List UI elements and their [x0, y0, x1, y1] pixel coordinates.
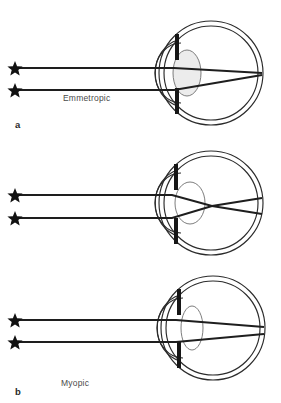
panel-emmetropic: Emmetropic a: [0, 0, 281, 140]
star-source-upper: [7, 313, 22, 328]
star-source-lower: [7, 83, 22, 98]
panel-a-diagram: [0, 0, 281, 140]
panel-b-diagram: [0, 140, 281, 270]
panel-hyperopic: Hyperopic c: [0, 270, 281, 403]
iris-bar-lower: [175, 88, 179, 114]
panel-letter-a: a: [15, 119, 20, 130]
star-source-lower: [7, 211, 22, 226]
condition-label-emmetropic: Emmetropic: [63, 93, 110, 103]
iris-bar-lower: [177, 342, 181, 368]
sclera-outer-circle: [161, 276, 265, 380]
star-source-upper: [7, 188, 22, 203]
panel-c-diagram: [0, 270, 281, 403]
light-ray-upper: [16, 320, 264, 327]
light-ray-lower: [16, 334, 264, 342]
light-ray-upper: [16, 68, 262, 73]
eye-refraction-figure: Emmetropic a Myopic b: [0, 0, 281, 403]
iris-bar-upper: [174, 164, 178, 190]
panel-myopic: Myopic b: [0, 140, 281, 270]
iris-bar-upper: [175, 34, 179, 60]
light-ray-lower: [16, 75, 262, 90]
iris-bar-upper: [177, 289, 181, 315]
star-source-lower: [7, 335, 22, 350]
iris-bar-lower: [174, 218, 178, 244]
crystalline-lens: [181, 306, 203, 350]
star-source-upper: [7, 61, 22, 76]
